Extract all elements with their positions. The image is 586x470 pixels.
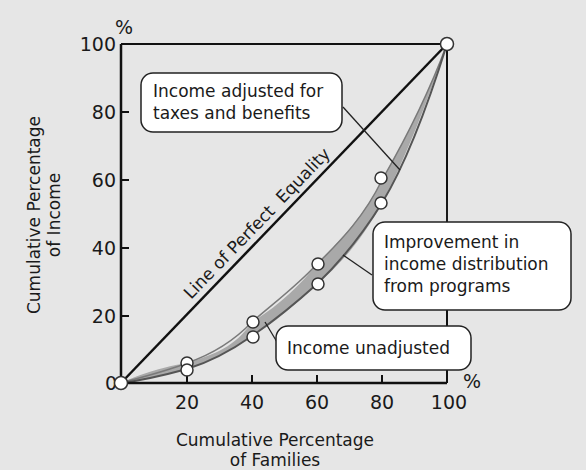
- x-tick-100: 100: [431, 391, 467, 413]
- x-tick-80: 80: [370, 391, 394, 413]
- marker-end: [441, 38, 454, 51]
- callout-unadjusted: Income unadjusted: [276, 326, 471, 370]
- x-tick-60: 60: [305, 391, 329, 413]
- y-axis-title-line2: of Income: [44, 173, 64, 257]
- callout-adjusted-line2: taxes and benefits: [153, 103, 311, 123]
- y-tick-40: 40: [92, 237, 116, 259]
- unadjusted-leader: [265, 322, 277, 342]
- marker-adjusted-80: [375, 172, 387, 184]
- marker-unadjusted-40: [247, 331, 259, 343]
- y-percent-sign: %: [115, 16, 133, 38]
- callout-improvement-line1: Improvement in: [384, 232, 519, 252]
- improvement-leader: [343, 255, 372, 275]
- y-tick-60: 60: [92, 169, 116, 191]
- callout-improvement: Improvement in income distribution from …: [373, 222, 571, 310]
- marker-unadjusted-20: [181, 364, 193, 376]
- x-axis-title-line1: Cumulative Percentage: [176, 430, 374, 450]
- callout-unadjusted-text: Income unadjusted: [287, 338, 450, 358]
- marker-unadjusted-80: [375, 197, 387, 209]
- marker-adjusted-40: [247, 316, 259, 328]
- y-tick-80: 80: [92, 101, 116, 123]
- x-axis-title-line2: of Families: [230, 450, 321, 470]
- x-tick-40: 40: [240, 391, 264, 413]
- callout-adjusted-line1: Income adjusted for: [153, 81, 323, 101]
- adjusted-leader: [343, 107, 400, 170]
- y-tick-100: 100: [80, 33, 116, 55]
- y-tick-20: 20: [92, 305, 116, 327]
- marker-unadjusted-60: [312, 278, 324, 290]
- lorenz-curve-chart: 100 80 60 40 20 0 % 20 40 60 80 100 % Cu…: [0, 0, 586, 470]
- y-axis-title-line1: Cumulative Percentage: [24, 116, 44, 314]
- marker-adjusted-60: [312, 258, 324, 270]
- callout-improvement-line2: income distribution: [384, 254, 549, 274]
- marker-origin: [115, 377, 128, 390]
- x-tick-20: 20: [175, 391, 199, 413]
- x-percent-sign: %: [463, 370, 481, 392]
- callout-adjusted: Income adjusted for taxes and benefits: [141, 73, 342, 132]
- callout-improvement-line3: from programs: [384, 276, 511, 296]
